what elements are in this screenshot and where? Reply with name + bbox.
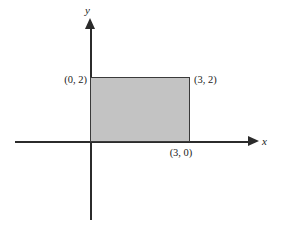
x-axis-label: x bbox=[262, 136, 267, 147]
coordinate-plane-figure: x y (0, 2) (3, 2) (3, 0) bbox=[0, 0, 281, 227]
point-label-bottom-right: (3, 0) bbox=[157, 148, 205, 159]
point-label-top-left: (0, 2) bbox=[0, 75, 87, 86]
y-axis-label: y bbox=[85, 5, 90, 16]
x-axis-arrow-icon bbox=[248, 136, 259, 146]
shaded-rectangle-region bbox=[90, 77, 190, 142]
y-axis-arrow-icon bbox=[85, 18, 95, 29]
point-label-top-right: (3, 2) bbox=[194, 75, 217, 86]
